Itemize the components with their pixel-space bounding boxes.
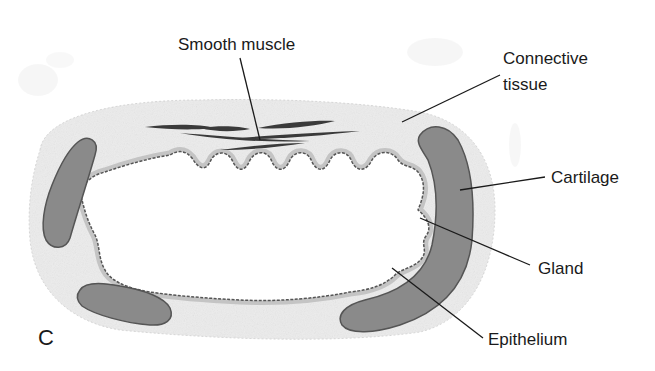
- epithelium-line: [81, 152, 429, 301]
- label-connective-tissue-2: tissue: [503, 74, 547, 95]
- label-cartilage: Cartilage: [551, 167, 619, 188]
- label-connective-tissue-1: Connective: [503, 48, 588, 69]
- panel-letter: C: [38, 327, 54, 348]
- label-smooth-muscle: Smooth muscle: [178, 34, 295, 55]
- label-gland: Gland: [538, 258, 583, 279]
- label-epithelium: Epithelium: [488, 329, 567, 350]
- leader-connective-tissue: [402, 75, 500, 122]
